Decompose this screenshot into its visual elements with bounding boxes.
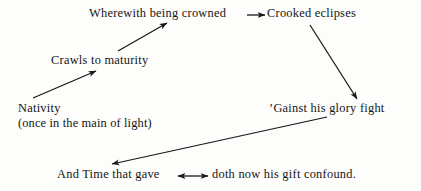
node-doth-now-his-gift-confound: doth now his gift confound. bbox=[212, 167, 356, 182]
node-nativity: Nativity (once in the main of light) bbox=[18, 101, 152, 131]
arrow-crawls-to-wherewith bbox=[118, 23, 167, 51]
sonnet-cycle-diagram: Wherewith being crowned Crooked eclipses… bbox=[0, 0, 421, 191]
node-and-time-that-gave: And Time that gave bbox=[57, 167, 160, 182]
node-nativity-subtext: (once in the main of light) bbox=[18, 116, 152, 131]
arrow-crooked-to-gainst bbox=[310, 25, 357, 99]
arrow-layer bbox=[0, 0, 421, 191]
node-wherewith-being-crowned: Wherewith being crowned bbox=[89, 6, 226, 21]
node-gainst-his-glory-fight: ’Gainst his glory fight bbox=[269, 101, 385, 116]
node-nativity-label: Nativity bbox=[18, 101, 61, 115]
node-crooked-eclipses: Crooked eclipses bbox=[267, 6, 356, 21]
arrow-nativity-to-crawls bbox=[33, 71, 96, 98]
node-crawls-to-maturity: Crawls to maturity bbox=[51, 53, 148, 68]
